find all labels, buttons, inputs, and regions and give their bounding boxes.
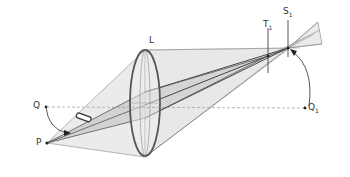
t1-focus-dot bbox=[267, 55, 270, 58]
label-s1-sub: 1 bbox=[289, 11, 293, 18]
label-q1-sub: 1 bbox=[315, 107, 319, 114]
label-s1: S1 bbox=[283, 7, 293, 18]
lens bbox=[130, 50, 160, 156]
label-q: Q bbox=[33, 101, 40, 110]
label-p: P bbox=[36, 138, 41, 147]
label-l: L bbox=[149, 36, 154, 45]
point-q1 bbox=[304, 107, 307, 110]
label-t1: T1 bbox=[263, 20, 272, 31]
optics-diagram bbox=[0, 0, 350, 177]
s1-focus-dot bbox=[287, 47, 290, 50]
rotation-arc-q1-s1 bbox=[293, 52, 310, 106]
label-t1-sub: 1 bbox=[269, 24, 273, 31]
point-p bbox=[45, 141, 48, 144]
label-q1: Q1 bbox=[308, 103, 319, 114]
